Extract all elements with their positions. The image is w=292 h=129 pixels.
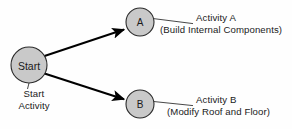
callout-b-line1: Activity B [196,94,236,106]
leader-line-b [154,102,194,106]
arrow-start-to-a [45,30,125,56]
callout-a-line1: Activity A [196,12,236,24]
callout-start-line2: Activity [10,100,58,112]
node-start[interactable]: Start [11,47,47,83]
callout-start-line1: Start [10,88,58,100]
leader-line-a [154,19,194,24]
diagram-canvas: Start A B Start Activity Activity A (Bui… [0,0,292,129]
node-b-label: B [137,99,144,110]
node-a[interactable]: A [126,8,154,36]
callout-a-line2: (Build Internal Components) [160,24,282,36]
node-start-label: Start [18,60,40,72]
node-a-label: A [137,17,144,28]
callout-b-line2: (Modify Roof and Floor) [167,106,270,118]
callout-start: Start Activity [10,88,58,112]
node-b[interactable]: B [126,90,154,118]
edge-start-to-a [45,30,125,56]
